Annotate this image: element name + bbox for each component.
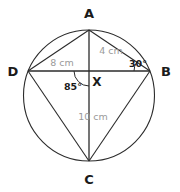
geometry-diagram: A B C D X 8 cm 4 cm 10 cm 30° 85° (0, 0, 180, 192)
geometry-canvas: A B C D X 8 cm 4 cm 10 cm 30° 85° (0, 0, 180, 192)
angle-label-at-b: 30° (129, 58, 147, 69)
angle-label-at-x: 85° (64, 81, 82, 92)
vertex-label-C: C (84, 172, 94, 187)
vertex-label-D: D (8, 64, 19, 79)
vertex-label-A: A (84, 6, 94, 21)
dimension-label-dx: 8 cm (50, 57, 74, 68)
intersection-label-X: X (92, 75, 102, 89)
vertex-label-B: B (161, 64, 171, 79)
dimension-label-xc: 10 cm (78, 111, 108, 122)
dimension-label-ax: 4 cm (99, 45, 123, 56)
